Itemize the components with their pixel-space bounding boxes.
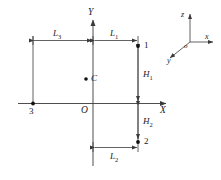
axis-label-x: X <box>160 106 166 116</box>
dimension-label-H1: H1 <box>143 70 153 81</box>
triad-label-y: y <box>167 57 171 65</box>
triad-origin-label: o <box>184 43 188 50</box>
dimension-label-L2: L2 <box>110 152 118 163</box>
dimension-label-H2: H2 <box>143 117 153 128</box>
triad-label-x: x <box>205 33 209 41</box>
axis-origin-label: O <box>81 106 88 116</box>
axis-label-y: Y <box>88 8 93 18</box>
node-marker-1 <box>136 44 140 48</box>
dimension-line-L3 <box>33 36 92 45</box>
centroid-marker <box>84 77 88 81</box>
node-label-1: 1 <box>144 41 149 50</box>
triad-label-z: z <box>181 11 184 19</box>
node-label-3: 3 <box>29 107 34 116</box>
dimension-label-L1: L1 <box>110 29 118 40</box>
node-marker-3 <box>31 102 35 106</box>
coordinate-dimension-diagram: Y X O L3 L1 L2 H1 H2 1 2 3 C z x y o <box>0 0 221 180</box>
dimension-label-L3: L3 <box>53 29 61 40</box>
structure-outline <box>33 36 138 152</box>
centroid-label: C <box>91 74 97 83</box>
node-label-2: 2 <box>144 137 149 146</box>
node-marker-2 <box>136 140 140 144</box>
